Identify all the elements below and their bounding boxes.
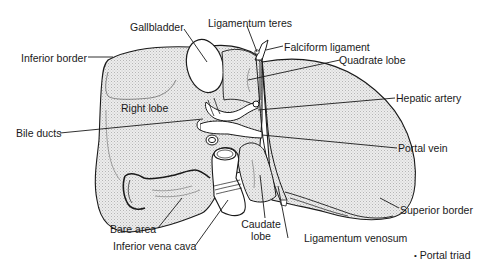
label-portal-vein: Portal vein xyxy=(398,142,448,154)
label-gallbladder: Gallbladder xyxy=(130,21,184,33)
label-falciform-ligament: Falciform ligament xyxy=(284,41,370,53)
label-right-lobe: Right lobe xyxy=(121,102,168,114)
quadrate-lobe-shape xyxy=(222,49,260,104)
label-quadrate-lobe: Quadrate lobe xyxy=(339,54,406,66)
footnote-portal-triad: • Portal triad xyxy=(414,249,471,261)
label-inferior-border: Inferior border xyxy=(21,52,87,64)
label-ligamentum-teres: Ligamentum teres xyxy=(208,17,292,29)
label-ligamentum-venosum: Ligamentum venosum xyxy=(304,232,407,244)
label-caudate-lobe-line2: lobe xyxy=(241,230,281,242)
label-caudate-lobe: Caudate lobe xyxy=(241,218,281,242)
label-inferior-vena-cava: Inferior vena cava xyxy=(113,240,196,252)
label-hepatic-artery: Hepatic artery xyxy=(396,92,461,104)
label-caudate-lobe-line1: Caudate xyxy=(241,218,281,230)
label-superior-border: Superior border xyxy=(400,204,473,216)
label-bare-area: Bare area xyxy=(110,223,156,235)
footnote-bullet: • xyxy=(414,251,417,260)
label-bile-ducts: Bile ducts xyxy=(16,127,62,139)
footnote-text: Portal triad xyxy=(420,249,471,261)
